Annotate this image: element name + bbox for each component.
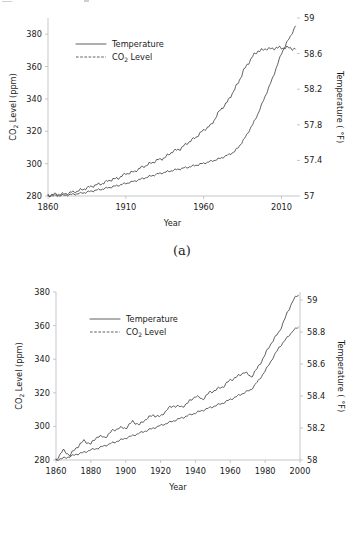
series-line-co2 bbox=[56, 327, 298, 460]
y-axis-right-tick-label: 58.6 bbox=[307, 359, 325, 369]
y-axis-left-tick-label: 340 bbox=[26, 94, 42, 104]
figure-a-caption: (a) bbox=[0, 243, 364, 258]
series-line-co2 bbox=[48, 26, 295, 197]
figure-a: 2803003203403603805757.457.858.258.65918… bbox=[0, 0, 364, 274]
y-axis-left-tick-label: 320 bbox=[34, 388, 50, 398]
y-axis-right-tick-label: 57 bbox=[304, 191, 314, 201]
y-axis-right-tick-label: 58.4 bbox=[307, 391, 325, 401]
y-axis-right-tick-label: 59 bbox=[307, 295, 317, 305]
x-axis-tick-label: 1860 bbox=[38, 202, 59, 212]
y-axis-right-tick-label: 58 bbox=[307, 455, 317, 465]
chart-b-svg: 2803003203403603805858.258.458.658.85918… bbox=[0, 274, 364, 514]
y-axis-left-tick-label: 280 bbox=[34, 455, 50, 465]
chart-a-svg: 2803003203403603805757.457.858.258.65918… bbox=[0, 0, 364, 240]
legend-label-temperature: Temperature bbox=[111, 39, 164, 49]
y-axis-right-title: Temperature ( °F) bbox=[335, 70, 345, 143]
figure-b: 2803003203403603805858.258.458.658.85918… bbox=[0, 274, 364, 548]
y-axis-right-tick-label: 58.2 bbox=[304, 84, 322, 94]
x-axis-tick-label: 2000 bbox=[290, 466, 311, 476]
x-axis-tick-label: 1860 bbox=[46, 466, 67, 476]
y-axis-left-tick-label: 340 bbox=[34, 354, 50, 364]
y-axis-left-title: CO2 Level (ppm) bbox=[8, 73, 19, 141]
y-axis-right-title: Temperature ( °F) bbox=[336, 339, 346, 412]
y-axis-left-tick-label: 300 bbox=[26, 159, 42, 169]
y-axis-right-tick-label: 58.2 bbox=[307, 423, 325, 433]
x-axis-tick-label: 1980 bbox=[255, 466, 276, 476]
y-axis-right-tick-label: 58.6 bbox=[304, 49, 322, 59]
legend-label-temperature: Temperature bbox=[125, 314, 178, 324]
y-axis-left-tick-label: 360 bbox=[26, 62, 42, 72]
chart-a-plot-area: 2803003203403603805757.457.858.258.65918… bbox=[0, 0, 364, 240]
x-axis-tick-label: 1900 bbox=[115, 466, 136, 476]
legend-label-co2: CO2 Level bbox=[126, 327, 166, 338]
y-axis-left-tick-label: 360 bbox=[34, 321, 50, 331]
y-axis-left-tick-label: 380 bbox=[34, 287, 50, 297]
x-axis-tick-label: 1880 bbox=[80, 466, 101, 476]
y-axis-right-tick-label: 57.8 bbox=[304, 120, 322, 130]
x-axis-title: Year bbox=[163, 218, 182, 228]
x-axis-tick-label: 1920 bbox=[150, 466, 171, 476]
legend-label-co2: CO2 Level bbox=[112, 52, 152, 63]
x-axis-title: Year bbox=[168, 482, 187, 492]
series-line-temperature bbox=[48, 46, 295, 196]
x-axis-tick-label: 1960 bbox=[220, 466, 241, 476]
x-axis-tick-label: 1910 bbox=[115, 202, 136, 212]
y-axis-left-tick-label: 300 bbox=[34, 421, 50, 431]
x-axis-tick-label: 2010 bbox=[271, 202, 292, 212]
x-axis-tick-label: 1940 bbox=[185, 466, 206, 476]
chart-b-plot-area: 2803003203403603805858.258.458.658.85918… bbox=[0, 274, 364, 514]
x-axis-tick-label: 1960 bbox=[193, 202, 214, 212]
y-axis-right-tick-label: 57.4 bbox=[304, 155, 322, 165]
y-axis-left-tick-label: 380 bbox=[26, 29, 42, 39]
y-axis-right-tick-label: 58.8 bbox=[307, 327, 325, 337]
y-axis-left-tick-label: 280 bbox=[26, 191, 42, 201]
y-axis-left-title: CO2 Level (ppm) bbox=[14, 342, 25, 410]
y-axis-right-tick-label: 59 bbox=[304, 13, 314, 23]
y-axis-left-tick-label: 320 bbox=[26, 126, 42, 136]
